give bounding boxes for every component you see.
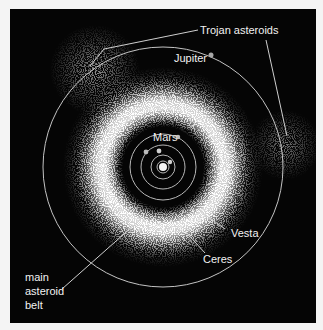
planet-venus: [157, 149, 162, 154]
sun-icon: [159, 163, 167, 171]
label-belt-line2: asteroid: [25, 285, 64, 297]
label-belt-line3: belt: [25, 299, 43, 311]
label-belt-line1: main: [25, 271, 49, 283]
trojan-cluster-leading: [50, 25, 140, 115]
planet-earth: [144, 150, 149, 155]
label-ceres: Ceres: [203, 253, 233, 265]
trojan-cluster-trailing: [250, 110, 320, 180]
asteroid-belt-diagram: Trojan asteroids Jupiter Mars Vesta Cere…: [0, 0, 323, 330]
label-vesta: Vesta: [231, 227, 259, 239]
label-jupiter: Jupiter: [174, 52, 207, 64]
planet-jupiter: [209, 53, 214, 58]
planet-mercury: [168, 160, 172, 164]
label-trojan-asteroids: Trojan asteroids: [200, 24, 279, 36]
label-mars: Mars: [153, 131, 178, 143]
